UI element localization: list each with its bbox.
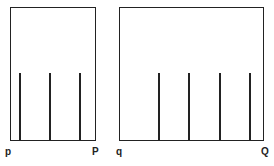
right-panel-line-2	[188, 73, 190, 140]
left-panel-line-2	[49, 73, 51, 140]
right-panel-line-3	[219, 73, 221, 140]
left-panel-line-3	[79, 73, 81, 140]
right-end-label: Q	[261, 146, 269, 157]
right-panel-line-1	[158, 73, 160, 140]
left-panel-box	[10, 7, 96, 141]
right-start-label: q	[116, 146, 122, 157]
right-panel-line-4	[249, 73, 251, 140]
right-panel-box	[119, 7, 264, 141]
left-start-label: p	[5, 146, 11, 157]
left-end-label: P	[92, 146, 99, 157]
left-panel-line-1	[19, 73, 21, 140]
